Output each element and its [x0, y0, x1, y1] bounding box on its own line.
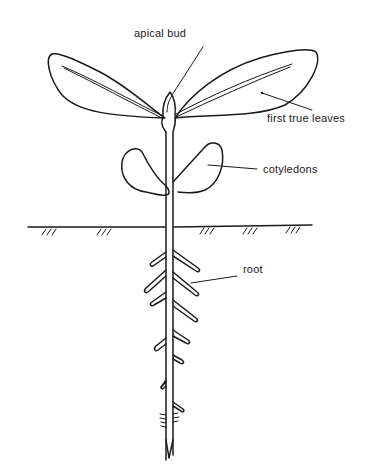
apical-bud-leader [172, 47, 203, 95]
left-true-leaf [48, 54, 165, 118]
lateral-roots [145, 250, 200, 412]
root-tip [160, 413, 179, 458]
label-apical-bud: apical bud [134, 27, 186, 39]
right-cotyledon [173, 143, 223, 193]
label-cotyledons: cotyledons [263, 163, 318, 175]
seedling-drawing [0, 0, 384, 469]
label-root: root [243, 263, 263, 275]
first-true-leaves-leader [262, 93, 312, 110]
cotyledons-leader [208, 165, 257, 169]
apical-bud [163, 92, 175, 116]
label-first-true-leaves: first true leaves [267, 112, 345, 124]
left-cotyledon [122, 149, 169, 195]
stem [162, 118, 176, 460]
root-leader [191, 276, 237, 283]
soil-line [28, 225, 312, 235]
right-true-leaf [175, 50, 318, 118]
